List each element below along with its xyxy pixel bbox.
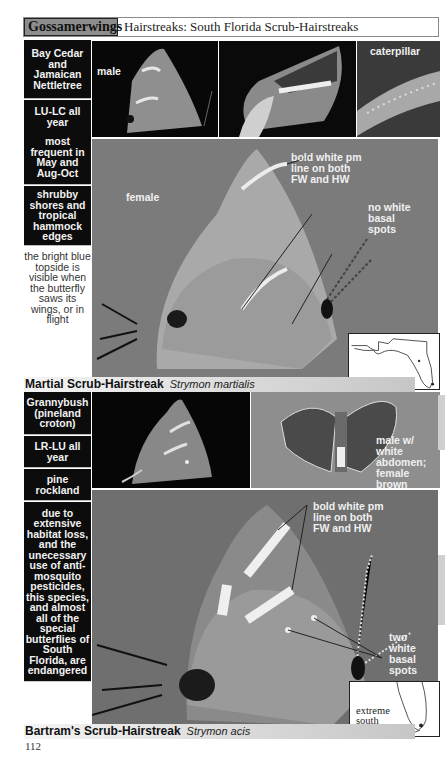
label-male: male xyxy=(97,66,121,77)
annotation-two-basal-spots: two white basal spots xyxy=(389,632,417,676)
page-header: Gossamerwings Hairstreaks: South Florida… xyxy=(23,17,439,37)
hostplant-text: Bay Cedar and Jamaican Nettletree xyxy=(24,48,91,90)
butterfly-open-image xyxy=(219,41,356,137)
label-caterpillar: caterpillar xyxy=(370,46,420,57)
scientific-name: Strymon martialis xyxy=(170,378,255,390)
annotation-no-basal-spots: no white basal spots xyxy=(368,202,411,235)
butterfly-male-image xyxy=(92,41,218,137)
species-caption-bartrams: Bartram's Scrub-HairstreakStrymon acis xyxy=(24,724,415,739)
sidebar-hostplant: Grannybush (pineland croton) xyxy=(24,392,91,435)
page-number: 112 xyxy=(25,740,41,752)
caption-text: Martial Scrub-HairstreakStrymon martiali… xyxy=(25,377,255,392)
sidebar-habitat: pine rockland xyxy=(24,469,91,501)
abundance-text: LR-LU all year xyxy=(24,441,91,462)
sidebar-abundance: LR-LU all year xyxy=(24,436,91,468)
annotation-pm-line: bold white pm line on both FW and HW xyxy=(291,152,362,185)
frequency-text: most frequent in May and Aug-Oct xyxy=(24,136,91,178)
conservation-text: due to extensive habitat loss, and the u… xyxy=(24,508,91,676)
sidebar-habitat: shrubby shores and tropical hammock edge… xyxy=(24,186,91,246)
species-caption-martial: Martial Scrub-HairstreakStrymon martiali… xyxy=(24,377,415,392)
annotation-pm-line: bold white pm line on both FW and HW xyxy=(313,501,384,534)
label-female: female xyxy=(126,192,159,203)
page-edge-shadow xyxy=(438,395,445,450)
photo-male: male xyxy=(92,41,218,137)
sidebar-note: the bright blue topside is visible when … xyxy=(24,248,91,328)
hostplant-text: Grannybush (pineland croton) xyxy=(24,397,91,429)
photo-bartram-side xyxy=(92,392,250,488)
note-text: the bright blue topside is visible when … xyxy=(24,251,91,325)
label-male-white-abdomen: male w/ white abdomen; female brown xyxy=(376,435,426,488)
page-title: Hairstreaks: South Florida Scrub-Hairstr… xyxy=(124,19,358,35)
section-tag: Gossamerwings xyxy=(24,18,118,36)
sidebar-conservation-note: due to extensive habitat loss, and the u… xyxy=(24,502,91,682)
abundance-text: LU-LC all year xyxy=(24,106,91,127)
butterfly-side-image xyxy=(92,392,250,488)
caption-text: Bartram's Scrub-HairstreakStrymon acis xyxy=(25,724,250,739)
habitat-text: shrubby shores and tropical hammock edge… xyxy=(24,189,91,242)
page-edge-shadow xyxy=(438,555,445,625)
habitat-text: pine rockland xyxy=(24,474,91,495)
photo-caterpillar: caterpillar xyxy=(357,41,440,137)
common-name: Bartram's Scrub-Hairstreak xyxy=(25,724,181,738)
sidebar-hostplant: Bay Cedar and Jamaican Nettletree xyxy=(24,40,91,99)
photo-male-open xyxy=(219,41,356,137)
scientific-name: Strymon acis xyxy=(187,725,251,737)
common-name: Martial Scrub-Hairstreak xyxy=(25,377,164,391)
photo-bartram-open: male w/ white abdomen; female brown xyxy=(251,392,440,488)
sidebar-abundance: LU-LC all year most frequent in May and … xyxy=(24,100,91,185)
